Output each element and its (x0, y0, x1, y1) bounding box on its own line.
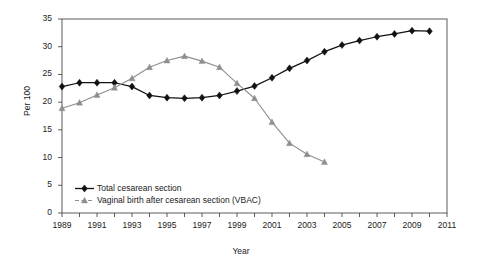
data-point-marker (164, 94, 170, 101)
legend-label-total-cesarean: Total cesarean section (97, 184, 182, 193)
chart-figure: Per 100 Year 05101520253035 198919911993… (0, 0, 482, 273)
data-point-marker (269, 74, 275, 81)
x-axis-tick-label: 1995 (147, 221, 187, 230)
y-axis-tick-label: 5 (26, 180, 52, 189)
data-point-marker (287, 65, 293, 72)
data-point-marker (217, 92, 223, 99)
data-point-marker (181, 53, 187, 59)
chart-legend (75, 185, 94, 203)
data-point-marker (427, 28, 433, 35)
y-axis-tick-label: 15 (26, 125, 52, 134)
y-axis-tick-label: 35 (26, 14, 52, 23)
x-axis-tick-label: 2005 (322, 221, 362, 230)
y-axis-tick-label: 25 (26, 69, 52, 78)
data-point-marker (409, 27, 415, 34)
legend-label-vbac: Vaginal birth after cesarean section (VB… (97, 196, 261, 205)
data-point-marker (94, 79, 100, 86)
y-axis-tick-label: 30 (26, 42, 52, 51)
chart-plot-svg (0, 0, 482, 273)
data-point-marker (322, 48, 328, 55)
data-point-marker (357, 37, 363, 44)
x-axis-tick-label: 1993 (112, 221, 152, 230)
x-axis-tick-label: 2003 (287, 221, 327, 230)
y-axis-tick-label: 0 (26, 208, 52, 217)
y-axis-tick-label: 10 (26, 153, 52, 162)
data-point-marker (304, 151, 310, 157)
data-point-marker (199, 94, 205, 101)
data-point-marker (147, 92, 153, 99)
data-point-marker (77, 79, 83, 86)
data-point-marker (392, 30, 398, 37)
data-point-marker (129, 83, 135, 90)
y-axis-tick-label: 20 (26, 97, 52, 106)
x-axis-tick-label: 2009 (392, 221, 432, 230)
legend-marker-diamond-icon (82, 185, 88, 192)
x-axis-tick-label: 1991 (77, 221, 117, 230)
data-point-marker (339, 42, 345, 49)
x-axis-title: Year (0, 246, 482, 256)
x-axis-tick-label: 2011 (427, 221, 467, 230)
x-axis-tick-label: 1989 (42, 221, 82, 230)
x-axis-tick-label: 2007 (357, 221, 397, 230)
data-point-marker (304, 57, 310, 64)
data-point-marker (111, 85, 117, 91)
x-axis-tick-label: 1997 (182, 221, 222, 230)
data-point-marker (182, 95, 188, 102)
series-line (62, 56, 325, 162)
series-line (62, 31, 430, 99)
data-point-marker (374, 33, 380, 40)
data-point-marker (129, 75, 135, 81)
data-point-marker (59, 83, 65, 90)
x-axis-tick-label: 1999 (217, 221, 257, 230)
data-point-marker (252, 83, 258, 90)
x-axis-tick-label: 2001 (252, 221, 292, 230)
data-point-marker (234, 88, 240, 95)
